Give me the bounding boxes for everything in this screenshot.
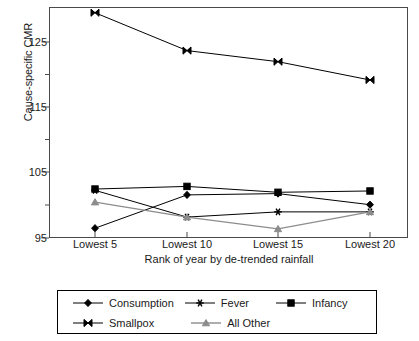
legend-marker-diamond-icon [72,297,104,309]
legend-label-infancy: Infancy [312,298,347,309]
x-tick-label-lowest-20: Lowest 20 [345,238,395,250]
legend-row-2: Smallpox All Other [58,312,378,334]
x-axis-ticks [95,232,370,237]
series-smallpox [91,9,374,83]
x-axis-title: Rank of year by de-trended rainfall [49,253,409,265]
legend-item-consumption[interactable]: Consumption [72,297,174,309]
legend-item-smallpox[interactable]: Smallpox [72,317,154,329]
legend-label-consumption: Consumption [109,298,174,309]
series-consumption [92,190,374,232]
legend-label-smallpox: Smallpox [109,318,154,329]
legend-marker-bowtie-icon [72,317,104,329]
chart-container: Cause-specific CMR 125 115 105 95 Lowest… [0,0,419,341]
data-series-layer [91,9,374,232]
legend-marker-square-icon [275,297,307,309]
y-axis-ticks [43,42,49,238]
series-infancy [92,183,373,195]
legend-marker-asterisk-icon [184,297,216,309]
legend-item-fever[interactable]: Fever [184,297,249,309]
series-fever [91,187,374,220]
x-tick-label-lowest-15: Lowest 15 [253,238,303,250]
chart-legend: Consumption Fever Infancy Smallpox All O… [57,290,377,334]
legend-label-fever: Fever [221,298,249,309]
x-tick-label-lowest-5: Lowest 5 [73,238,117,250]
legend-item-infancy[interactable]: Infancy [275,297,347,309]
series-all-other [91,199,373,232]
x-tick-label-lowest-10: Lowest 10 [162,238,212,250]
legend-row-1: Consumption Fever Infancy [58,292,378,314]
legend-marker-triangle-icon [190,317,222,329]
legend-label-all-other: All Other [227,318,270,329]
legend-item-all-other[interactable]: All Other [190,317,270,329]
